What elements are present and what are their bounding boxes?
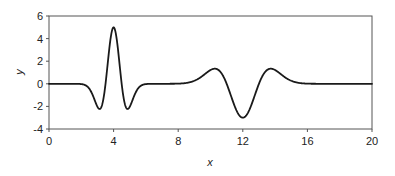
- x-tick-label: 16: [301, 135, 313, 147]
- line-chart: -4-20246 048121620 x y: [0, 0, 395, 176]
- y-tick-label: 0: [37, 78, 43, 90]
- y-tick-label: -4: [33, 123, 43, 135]
- x-tick-label: 8: [175, 135, 181, 147]
- x-axis-ticks: 048121620: [46, 129, 378, 147]
- plot-frame: [49, 16, 372, 129]
- x-tick-label: 4: [111, 135, 117, 147]
- y-axis-ticks: -4-20246: [33, 10, 49, 135]
- data-line: [49, 27, 372, 117]
- plot-border: [49, 16, 372, 129]
- y-axis-title: y: [13, 68, 25, 76]
- x-axis-title: x: [206, 156, 213, 168]
- y-tick-label: -2: [33, 100, 43, 112]
- y-tick-label: 6: [37, 10, 43, 22]
- y-tick-label: 2: [37, 55, 43, 67]
- y-tick-label: 4: [37, 33, 43, 45]
- x-tick-label: 0: [46, 135, 52, 147]
- x-tick-label: 20: [366, 135, 378, 147]
- x-tick-label: 12: [237, 135, 249, 147]
